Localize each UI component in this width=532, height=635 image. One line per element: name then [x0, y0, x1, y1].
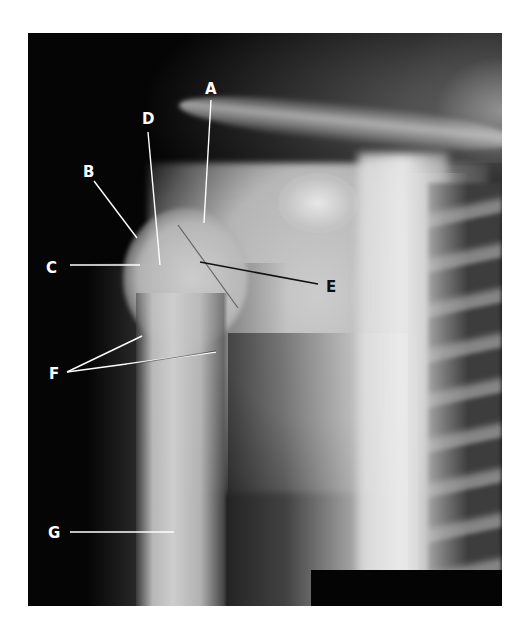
film-marker-block [311, 570, 502, 606]
shoulder-radiograph [28, 33, 502, 606]
label-f: F [49, 367, 59, 382]
label-d: D [142, 112, 154, 127]
label-a: A [205, 82, 217, 97]
label-c: C [46, 261, 57, 276]
label-g: G [48, 526, 60, 541]
coracoid-process [278, 173, 358, 233]
humeral-shaft [136, 293, 228, 606]
label-e: E [326, 280, 336, 295]
label-b: B [83, 165, 94, 180]
lung-edge [408, 173, 468, 606]
